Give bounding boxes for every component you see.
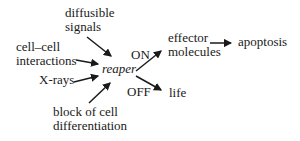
arrow-layer	[0, 0, 300, 141]
node-diffusible-signals-line2: signals	[65, 20, 115, 34]
arrow-block-differentiation-to-reaper	[89, 83, 110, 103]
node-apoptosis: apoptosis	[238, 35, 287, 49]
node-effector-molecules: effector molecules	[168, 31, 221, 59]
node-effector-molecules-line2: molecules	[168, 45, 221, 59]
arrow-x-rays-to-reaper	[74, 76, 98, 82]
state-on: ON	[131, 48, 150, 62]
node-block-differentiation-line1: block of cell	[53, 105, 127, 119]
arrow-cell-cell-interactions-to-reaper	[76, 60, 98, 64]
node-cell-cell-interactions-line1: cell–cell	[16, 40, 77, 54]
diagram-canvas: diffusible signals cell–cell interaction…	[0, 0, 300, 141]
node-reaper: reaper	[102, 62, 136, 76]
node-cell-cell-interactions-line2: interactions	[16, 54, 77, 68]
arrow-diffusible-signals-to-reaper	[87, 37, 111, 56]
state-off: OFF	[127, 85, 151, 99]
node-life: life	[169, 86, 186, 100]
node-cell-cell-interactions: cell–cell interactions	[16, 40, 77, 68]
node-diffusible-signals: diffusible signals	[65, 6, 115, 34]
node-effector-molecules-line1: effector	[168, 31, 221, 45]
node-x-rays: X-rays	[39, 73, 74, 87]
node-block-differentiation: block of cell differentiation	[53, 105, 127, 133]
node-diffusible-signals-line1: diffusible	[65, 6, 115, 20]
node-block-differentiation-line2: differentiation	[53, 119, 127, 133]
